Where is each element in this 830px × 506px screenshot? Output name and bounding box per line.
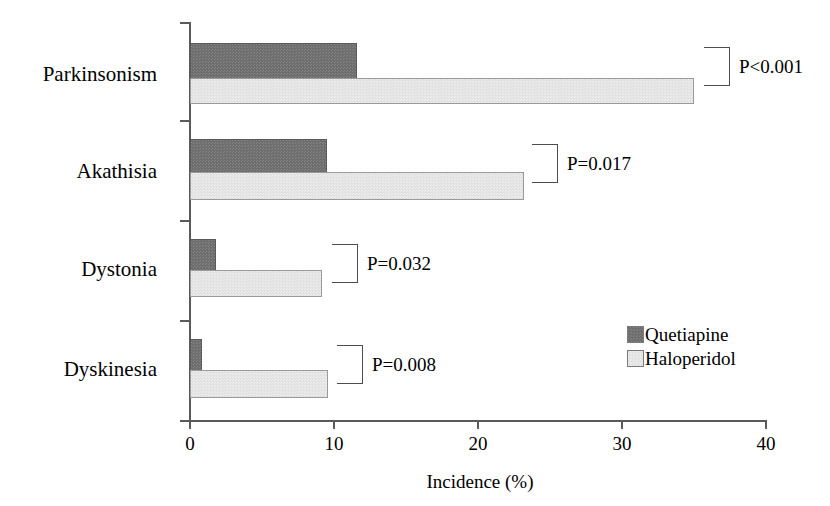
x-axis-tick-40 (765, 420, 767, 429)
bar-akathisia-quetiapine (190, 139, 327, 173)
category-label-akathisia: Akathisia (77, 161, 157, 182)
p-value-akathisia: P=0.017 (567, 154, 631, 173)
y-axis-tick (180, 220, 190, 222)
x-axis-tick-label-40: 40 (746, 434, 786, 453)
significance-bracket-dystonia (332, 244, 358, 283)
bar-dystonia-quetiapine (190, 239, 216, 271)
legend-swatch-icon-haloperidol (627, 350, 644, 367)
x-axis-tick-label-10: 10 (314, 434, 354, 453)
bar-dyskinesia-haloperidol (190, 370, 328, 398)
bar-parkinsonism-quetiapine (190, 43, 357, 79)
x-axis-tick-0 (189, 420, 191, 429)
x-axis-tick-label-20: 20 (458, 434, 498, 453)
legend-label-quetiapine: Quetiapine (645, 325, 728, 344)
bar-chart: Parkinsonism Akathisia Dystonia Dyskines… (0, 0, 830, 506)
legend-item-quetiapine: Quetiapine (627, 322, 736, 346)
category-label-dystonia: Dystonia (81, 259, 157, 280)
bar-parkinsonism-haloperidol (190, 78, 694, 104)
x-axis-tick-label-0: 0 (170, 434, 210, 453)
category-label-parkinsonism: Parkinsonism (43, 64, 157, 85)
y-axis-tick (180, 120, 190, 122)
x-axis-tick-label-30: 30 (602, 434, 642, 453)
x-axis-tick-30 (621, 420, 623, 429)
significance-bracket-akathisia (532, 144, 558, 183)
significance-bracket-parkinsonism (704, 47, 730, 86)
legend-swatch-icon-quetiapine (627, 326, 644, 343)
x-axis-tick-20 (477, 420, 479, 429)
legend-item-haloperidol: Haloperidol (627, 346, 736, 370)
x-axis-tick-10 (333, 420, 335, 429)
p-value-dystonia: P=0.032 (367, 254, 431, 273)
bar-akathisia-haloperidol (190, 172, 524, 200)
significance-bracket-dyskinesia (337, 345, 363, 384)
bar-dyskinesia-quetiapine (190, 339, 202, 371)
legend-label-haloperidol: Haloperidol (645, 349, 736, 368)
category-label-dyskinesia: Dyskinesia (64, 359, 157, 380)
y-axis-tick (180, 320, 190, 322)
p-value-dyskinesia: P=0.008 (372, 355, 436, 374)
p-value-parkinsonism: P<0.001 (739, 57, 803, 76)
legend: Quetiapine Haloperidol (627, 322, 736, 370)
y-axis-tick (180, 22, 190, 24)
bar-dystonia-haloperidol (190, 270, 322, 297)
x-axis-title: Incidence (%) (380, 472, 580, 491)
